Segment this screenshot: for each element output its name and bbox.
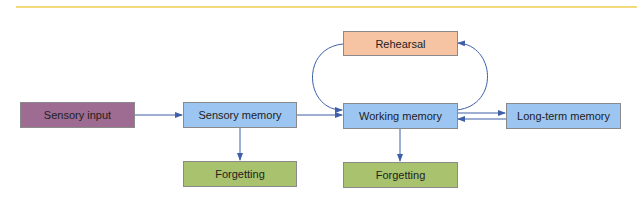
node-label: Sensory memory [198, 109, 281, 121]
node-forgetting-sensory: Forgetting [183, 161, 297, 187]
node-label: Working memory [359, 110, 442, 122]
connectors [0, 0, 637, 197]
node-label: Sensory input [44, 109, 111, 121]
node-forgetting-working: Forgetting [343, 162, 458, 188]
node-rehearsal: Rehearsal [343, 31, 458, 56]
node-label: Forgetting [215, 168, 265, 180]
node-label: Long-term memory [517, 110, 610, 122]
node-sensory-input: Sensory input [20, 102, 135, 128]
node-sensory-memory: Sensory memory [183, 102, 297, 128]
node-working-memory: Working memory [343, 103, 458, 129]
node-long-term-memory: Long-term memory [506, 103, 621, 129]
node-label: Rehearsal [375, 38, 425, 50]
memory-model-diagram: Sensory input Sensory memory Working mem… [0, 0, 637, 197]
node-label: Forgetting [376, 169, 426, 181]
